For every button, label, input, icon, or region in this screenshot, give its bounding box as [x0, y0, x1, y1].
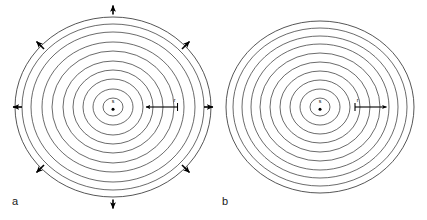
source-label: s	[319, 98, 322, 104]
panel-a: s r	[13, 6, 213, 209]
radius-label: r	[357, 97, 359, 103]
ring-4	[280, 71, 360, 143]
ring-3	[290, 80, 350, 134]
ring-2	[93, 89, 133, 125]
panel-a-radius-measure: r	[146, 97, 178, 108]
arrow-southwest-icon	[37, 165, 45, 173]
source-point	[319, 108, 322, 111]
ring-10	[15, 17, 211, 197]
panel-a-source-marker: s	[112, 98, 115, 110]
panel-a-radial-arrows	[13, 6, 213, 209]
panel-b-source-marker: s	[319, 98, 322, 110]
radius-label: r	[174, 97, 176, 103]
source-label: s	[112, 98, 115, 104]
source-point	[112, 108, 115, 111]
panel-a-wavefront-rings	[15, 17, 211, 197]
arrow-northeast-icon	[182, 42, 190, 50]
panel-b: s r	[226, 21, 414, 193]
panel-label-b: b	[222, 196, 228, 207]
figure-root: s r	[0, 0, 427, 220]
ring-3	[83, 79, 143, 135]
ring-4	[73, 70, 153, 144]
arrow-northwest-icon	[37, 42, 45, 50]
panel-label-a: a	[12, 196, 18, 207]
arrow-southeast-icon	[182, 165, 190, 173]
ring-2	[300, 89, 340, 125]
diagram-canvas: s r	[0, 0, 427, 220]
